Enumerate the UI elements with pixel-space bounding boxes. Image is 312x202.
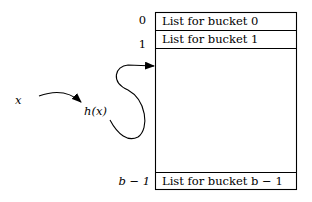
bucket-index-0: 0 <box>106 13 146 27</box>
hash-function-label: h(x) <box>84 104 107 118</box>
bucket-label-1: List for bucket 1 <box>162 32 258 46</box>
arrow-x-to-hash <box>39 93 81 102</box>
bucket-label-0: List for bucket 0 <box>162 14 258 28</box>
hash-table-diagram: 0 List for bucket 0 1 List for bucket 1 … <box>0 0 312 202</box>
bucket-index-last: b − 1 <box>110 174 150 188</box>
bucket-index-1: 1 <box>106 37 146 51</box>
arrow-hash-to-bucket <box>110 65 154 139</box>
input-key-label: x <box>15 93 22 107</box>
diagram-lines <box>0 0 312 202</box>
bucket-label-last: List for bucket b − 1 <box>162 174 283 188</box>
